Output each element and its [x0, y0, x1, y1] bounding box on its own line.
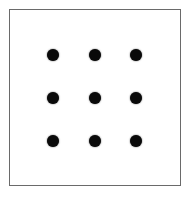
dot-r1-c1 [89, 92, 101, 104]
dot-r0-c2 [130, 49, 142, 61]
dot-r2-c2 [130, 135, 142, 147]
dot-r2-c0 [47, 135, 59, 147]
dot-r2-c1 [89, 135, 101, 147]
dot-r1-c0 [47, 92, 59, 104]
dot-r0-c1 [89, 49, 101, 61]
dot-r1-c2 [130, 92, 142, 104]
dot-r0-c0 [47, 49, 59, 61]
